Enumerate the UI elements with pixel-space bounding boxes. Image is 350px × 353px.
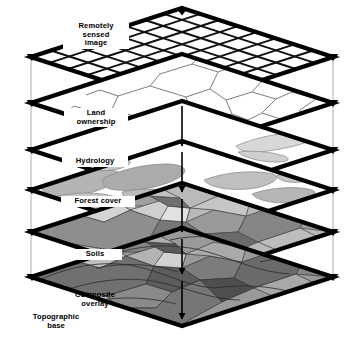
caption-ghost-artifact <box>8 338 342 352</box>
layer-stack-diagram <box>0 0 350 353</box>
gis-layer-cake-figure: Remotely sensed image Land ownership Hyd… <box>0 0 350 353</box>
